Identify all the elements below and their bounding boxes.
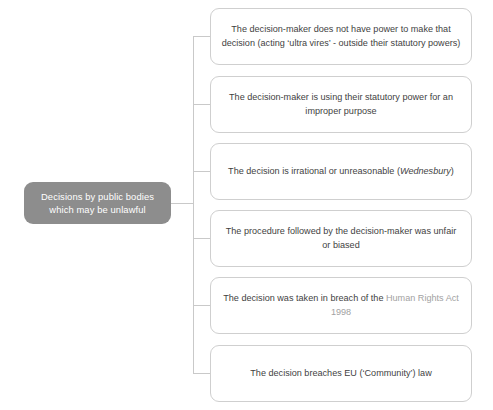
connector-branch-2 <box>193 104 211 105</box>
branch-label-procedural-unfairness: The procedure followed by the decision-m… <box>221 225 461 252</box>
connector-trunk <box>193 36 194 373</box>
connector-branch-4 <box>193 238 211 239</box>
branch-label-improper-purpose: The decision-maker is using their statut… <box>221 91 461 118</box>
branch-box-ultra-vires: The decision-maker does not have power t… <box>210 8 472 65</box>
branch-label-ultra-vires: The decision-maker does not have power t… <box>221 23 461 50</box>
root-node-decisions-by-public-bodies: Decisions by public bodies which may be … <box>24 182 171 224</box>
root-node-label: Decisions by public bodies which may be … <box>41 190 154 216</box>
branch-box-procedural-unfairness: The procedure followed by the decision-m… <box>210 210 472 267</box>
branch-label-eu-law-breach: The decision breaches EU (‘Community’) l… <box>250 367 431 381</box>
branch-box-improper-purpose: The decision-maker is using their statut… <box>210 76 472 133</box>
branch-label-irrationality: The decision is irrational or unreasonab… <box>228 165 454 179</box>
branch-box-human-rights-breach: The decision was taken in breach of the … <box>210 277 472 334</box>
branch-label-human-rights-breach: The decision was taken in breach of the … <box>221 292 461 319</box>
branch-box-irrationality: The decision is irrational or unreasonab… <box>210 143 472 200</box>
branch-box-eu-law-breach: The decision breaches EU (‘Community’) l… <box>210 345 472 402</box>
connector-branch-3 <box>193 171 211 172</box>
connector-branch-6 <box>193 373 211 374</box>
judicial-review-grounds-diagram: Decisions by public bodies which may be … <box>0 0 493 410</box>
connector-branch-1 <box>193 36 211 37</box>
connector-root-stem <box>171 203 194 204</box>
connector-branch-5 <box>193 305 211 306</box>
